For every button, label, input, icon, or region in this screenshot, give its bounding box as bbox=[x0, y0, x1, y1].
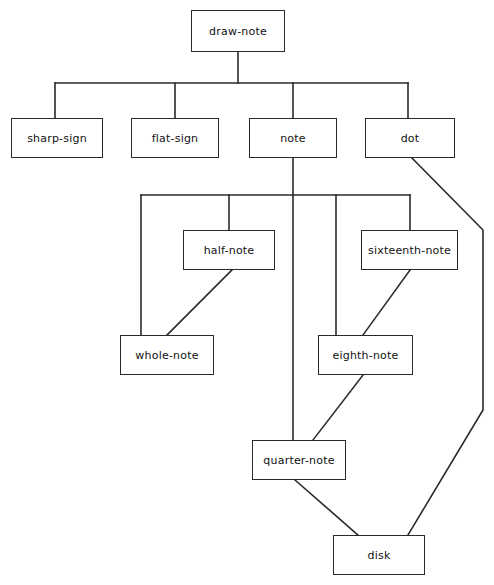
node-sharp-sign[interactable]: sharp-sign bbox=[11, 118, 103, 158]
diagram-canvas: draw-note sharp-sign flat-sign note dot … bbox=[0, 0, 494, 585]
node-half-note[interactable]: half-note bbox=[183, 230, 275, 270]
diagram-edges bbox=[0, 0, 494, 585]
node-whole-note[interactable]: whole-note bbox=[120, 335, 214, 375]
node-quarter-note[interactable]: quarter-note bbox=[252, 440, 346, 480]
edge-eighth-note-to-quarter-note bbox=[313, 375, 363, 440]
node-label: sharp-sign bbox=[27, 133, 87, 144]
edge-half-note-to-whole-note bbox=[167, 270, 232, 335]
node-draw-note[interactable]: draw-note bbox=[191, 10, 285, 52]
node-label: disk bbox=[368, 550, 391, 561]
node-label: flat-sign bbox=[152, 133, 199, 144]
node-label: sixteenth-note bbox=[368, 245, 451, 256]
node-disk[interactable]: disk bbox=[333, 535, 425, 575]
node-label: draw-note bbox=[209, 26, 267, 37]
node-label: eighth-note bbox=[332, 350, 398, 361]
node-dot[interactable]: dot bbox=[365, 118, 455, 158]
edge-sixteenth-note-to-eighth-note bbox=[363, 270, 410, 335]
node-label: note bbox=[280, 133, 306, 144]
node-note[interactable]: note bbox=[249, 118, 337, 158]
node-label: half-note bbox=[204, 245, 255, 256]
node-flat-sign[interactable]: flat-sign bbox=[131, 118, 219, 158]
node-sixteenth-note[interactable]: sixteenth-note bbox=[361, 230, 458, 270]
edge-dot-to-disk bbox=[408, 158, 483, 535]
node-label: whole-note bbox=[135, 350, 198, 361]
node-label: quarter-note bbox=[263, 455, 334, 466]
node-eighth-note[interactable]: eighth-note bbox=[318, 335, 413, 375]
node-label: dot bbox=[401, 133, 420, 144]
edge-quarter-note-to-disk bbox=[295, 480, 358, 535]
